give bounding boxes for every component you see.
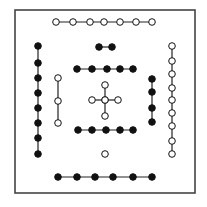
filled-dot xyxy=(104,66,111,73)
filled-dot xyxy=(89,127,96,134)
dot-diagram xyxy=(0,0,207,207)
right-filled-column xyxy=(149,76,156,126)
filled-dot xyxy=(35,43,42,50)
hollow-dot xyxy=(55,98,62,105)
hollow-dot xyxy=(115,97,122,104)
filled-dot xyxy=(149,119,156,126)
filled-dot xyxy=(110,174,117,181)
hollow-dot xyxy=(169,110,176,117)
hollow-dot xyxy=(102,113,109,120)
filled-dot xyxy=(35,120,42,127)
right-hollow-column xyxy=(169,43,176,158)
black-pair xyxy=(96,44,116,51)
hollow-dot xyxy=(169,85,176,92)
hollow-dot xyxy=(169,58,176,65)
hollow-dot xyxy=(149,19,156,26)
filled-dot xyxy=(35,90,42,97)
filled-dot xyxy=(74,66,81,73)
filled-dot xyxy=(96,44,103,51)
filled-dot xyxy=(117,127,124,134)
filled-dot xyxy=(75,127,82,134)
hollow-dot xyxy=(89,97,96,104)
hollow-dot xyxy=(53,19,60,26)
filled-dot xyxy=(55,174,62,181)
dot-groups xyxy=(35,19,176,181)
hollow-dot xyxy=(117,19,124,26)
lower-filled-row xyxy=(75,127,137,134)
center-hollow-cross-horizontal xyxy=(89,97,122,104)
filled-dot xyxy=(149,76,156,83)
hollow-dot xyxy=(102,82,109,89)
bottom-filled-row xyxy=(55,174,156,181)
hollow-dot xyxy=(101,19,108,26)
hollow-dot xyxy=(169,151,176,158)
hollow-dot xyxy=(169,43,176,50)
hollow-dot xyxy=(102,97,109,104)
hollow-dot xyxy=(87,19,94,26)
hollow-dot xyxy=(169,97,176,104)
filled-dot xyxy=(74,174,81,181)
hollow-dot xyxy=(70,19,77,26)
filled-dot xyxy=(117,66,124,73)
hollow-dot xyxy=(169,123,176,130)
hollow-dot xyxy=(169,71,176,78)
upper-filled-row xyxy=(74,66,137,73)
left-hollow-column xyxy=(55,75,62,127)
filled-dot xyxy=(149,105,156,112)
filled-dot xyxy=(130,66,137,73)
filled-dot xyxy=(109,44,116,51)
hollow-dot xyxy=(133,19,140,26)
filled-dot xyxy=(35,75,42,82)
filled-dot xyxy=(103,127,110,134)
filled-dot xyxy=(130,174,137,181)
filled-dot xyxy=(35,135,42,142)
hollow-dot xyxy=(55,120,62,127)
top-hollow-row xyxy=(53,19,156,26)
filled-dot xyxy=(35,151,42,158)
filled-dot xyxy=(92,174,99,181)
filled-dot xyxy=(35,60,42,67)
hollow-dot xyxy=(55,75,62,82)
filled-dot xyxy=(149,89,156,96)
left-filled-column xyxy=(35,43,42,158)
filled-dot xyxy=(130,127,137,134)
filled-dot xyxy=(149,174,156,181)
hollow-dot xyxy=(169,138,176,145)
filled-dot xyxy=(35,105,42,112)
filled-dot xyxy=(89,66,96,73)
single-hollow-dot xyxy=(102,151,109,158)
hollow-dot xyxy=(102,151,109,158)
